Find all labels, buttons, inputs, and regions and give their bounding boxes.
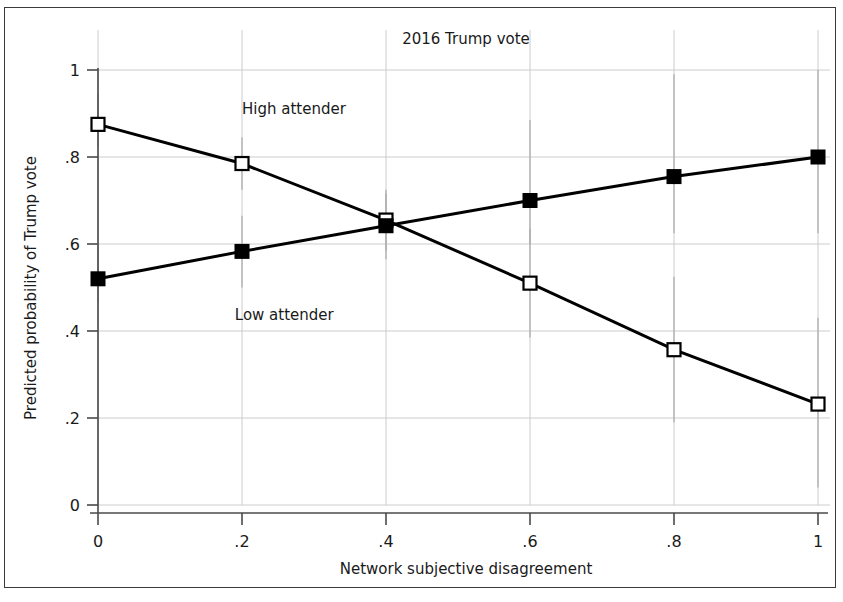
x-axis-title: Network subjective disagreement xyxy=(340,560,593,578)
data-point-marker-1-0 xyxy=(92,272,105,285)
data-point-marker-1-2 xyxy=(380,219,393,232)
x-tick-label: .6 xyxy=(522,532,537,551)
y-axis-title: Predicted probability of Trump vote xyxy=(22,156,40,420)
gridlines xyxy=(98,30,830,505)
y-tick-label: .2 xyxy=(65,409,80,428)
line-chart-plot: 0.2.4.6.810.2.4.6.81 2016 Trump vote Net… xyxy=(0,0,843,602)
chart-figure: 0.2.4.6.810.2.4.6.81 2016 Trump vote Net… xyxy=(0,0,843,602)
error-bars xyxy=(98,70,818,488)
series-label-high-attender: High attender xyxy=(242,100,347,118)
y-tick-label: .4 xyxy=(65,322,80,341)
data-point-marker-1-5 xyxy=(812,151,825,164)
chart-title: 2016 Trump vote xyxy=(402,30,530,48)
y-tick-label: .8 xyxy=(65,148,80,167)
series-line-low-attender xyxy=(98,157,818,279)
data-series xyxy=(92,118,825,411)
data-point-marker-1-4 xyxy=(668,170,681,183)
x-tick-label: .4 xyxy=(378,532,393,551)
data-point-marker-0-3 xyxy=(524,277,537,290)
x-tick-label: .8 xyxy=(666,532,681,551)
data-point-marker-0-5 xyxy=(812,398,825,411)
axes xyxy=(87,68,828,525)
data-point-marker-1-1 xyxy=(236,245,249,258)
tick-labels: 0.2.4.6.810.2.4.6.81 xyxy=(65,61,823,551)
data-point-marker-0-4 xyxy=(668,343,681,356)
series-label-low-attender: Low attender xyxy=(235,306,335,324)
data-point-marker-1-3 xyxy=(524,194,537,207)
data-point-marker-0-1 xyxy=(236,157,249,170)
x-tick-label: 0 xyxy=(93,532,103,551)
y-tick-label: 1 xyxy=(70,61,80,80)
x-tick-label: .2 xyxy=(234,532,249,551)
x-tick-label: 1 xyxy=(813,532,823,551)
data-point-marker-0-0 xyxy=(92,118,105,131)
y-tick-label: 0 xyxy=(70,496,80,515)
series-line-high-attender xyxy=(98,124,818,404)
y-tick-label: .6 xyxy=(65,235,80,254)
